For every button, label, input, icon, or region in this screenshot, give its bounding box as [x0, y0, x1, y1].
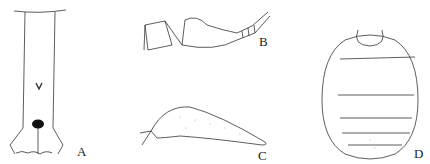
panel-c-drawing: [140, 107, 266, 145]
figure-plate: A B C D: [0, 0, 430, 164]
panel-label-d: D: [414, 146, 423, 162]
panel-label-b: B: [259, 34, 268, 50]
dark-spot: [32, 120, 44, 129]
stipple: [179, 116, 375, 148]
line-drawings: [0, 0, 430, 164]
panel-b-drawing: [144, 12, 270, 50]
panel-a-drawing: [10, 10, 66, 154]
panel-label-a: A: [77, 144, 86, 160]
panel-label-c: C: [258, 148, 267, 164]
